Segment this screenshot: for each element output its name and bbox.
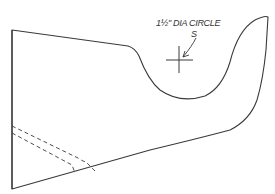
board-outline bbox=[12, 16, 268, 189]
leader-squiggle: S bbox=[191, 29, 197, 39]
hidden-line-upper bbox=[12, 126, 95, 171]
leader-arrow-icon bbox=[183, 38, 196, 57]
template-drawing: 1½" DIA CIRCLE S bbox=[0, 0, 275, 194]
hidden-line-lower bbox=[12, 133, 75, 173]
dimension-label: 1½" DIA CIRCLE bbox=[156, 18, 221, 28]
